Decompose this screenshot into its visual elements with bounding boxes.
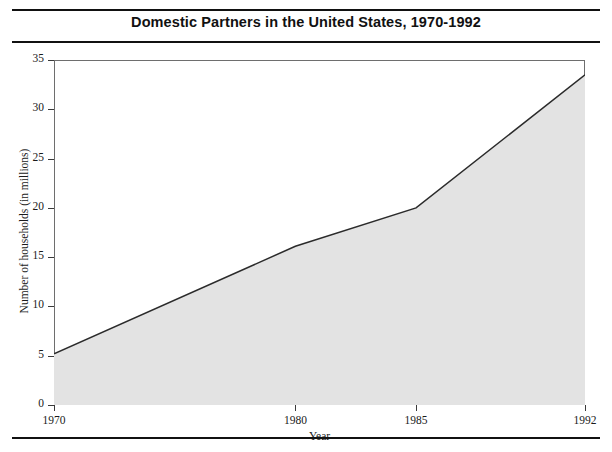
chart-figure: Domestic Partners in the United States, … — [0, 0, 612, 452]
x-tick-mark — [295, 405, 296, 411]
y-tick-mark — [48, 159, 54, 160]
x-tick-label: 1992 — [574, 414, 597, 426]
x-tick-label: 1985 — [405, 414, 428, 426]
title-rule-top — [12, 9, 600, 11]
y-tick-mark — [48, 208, 54, 209]
area-fill — [54, 75, 585, 405]
area-plot — [54, 60, 585, 405]
y-tick-mark — [48, 60, 54, 61]
y-tick-mark — [48, 109, 54, 110]
chart-title: Domestic Partners in the United States, … — [12, 14, 600, 30]
y-tick-label: 0 — [16, 397, 44, 409]
y-tick-label: 30 — [16, 101, 44, 113]
y-tick-label: 35 — [16, 52, 44, 64]
y-tick-mark — [48, 306, 54, 307]
y-tick-mark — [48, 257, 54, 258]
footer-rule — [12, 437, 600, 439]
x-tick-label: 1980 — [284, 414, 307, 426]
x-tick-mark — [54, 405, 55, 411]
x-axis-title: Year — [54, 430, 585, 442]
x-tick-mark — [416, 405, 417, 411]
y-axis-title: Number of households (in millions) — [18, 121, 30, 341]
title-rule-bottom — [12, 41, 600, 43]
x-tick-label: 1970 — [43, 414, 66, 426]
x-tick-mark — [585, 405, 586, 411]
y-tick-mark — [48, 356, 54, 357]
y-tick-label: 5 — [16, 348, 44, 360]
